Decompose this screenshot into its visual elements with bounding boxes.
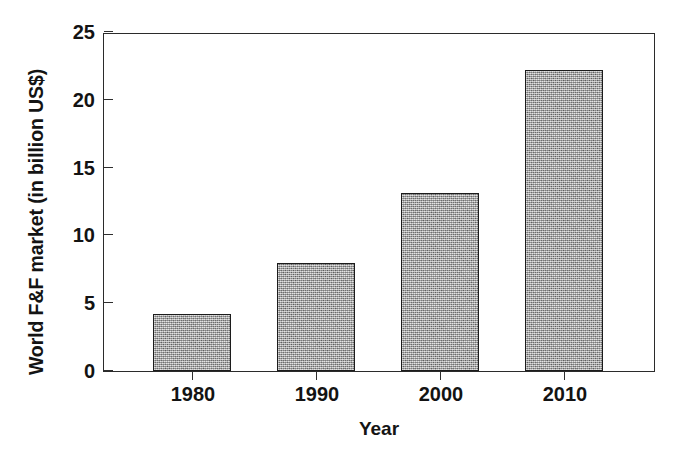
x-tick-label-2000: 2000 <box>419 384 464 404</box>
y-tick-label-20: 20 <box>73 90 95 110</box>
bar-2010 <box>525 70 603 371</box>
x-tick-label-1990: 1990 <box>295 384 340 404</box>
y-tick-label-0: 0 <box>84 361 95 381</box>
x-tick-label-2010: 2010 <box>543 384 588 404</box>
x-tick-2000: 2000 <box>440 371 441 380</box>
y-tick-15: 15 <box>104 167 113 168</box>
bar-1980 <box>153 314 231 371</box>
plot-area: 0510152025 1980199020002010 <box>103 33 655 372</box>
y-tick-25: 25 <box>104 31 113 32</box>
x-tick-1990: 1990 <box>316 371 317 380</box>
x-axis-title: Year <box>103 418 655 440</box>
y-tick-5: 5 <box>104 302 113 303</box>
y-tick-label-10: 10 <box>73 225 95 245</box>
bar-1990 <box>277 263 355 371</box>
y-tick-20: 20 <box>104 99 113 100</box>
y-tick-label-25: 25 <box>73 22 95 42</box>
y-axis-title: World F&F market (in billion US$) <box>14 32 58 412</box>
y-tick-label-15: 15 <box>73 158 95 178</box>
bar-2000 <box>401 193 479 371</box>
y-tick-10: 10 <box>104 234 113 235</box>
bar-chart-figure: World F&F market (in billion US$) 051015… <box>0 0 684 460</box>
y-tick-label-5: 5 <box>84 293 95 313</box>
x-tick-1980: 1980 <box>192 371 193 380</box>
bars-layer <box>104 34 654 371</box>
y-tick-0: 0 <box>104 370 113 371</box>
x-tick-label-1980: 1980 <box>171 384 216 404</box>
x-tick-2010: 2010 <box>564 371 565 380</box>
